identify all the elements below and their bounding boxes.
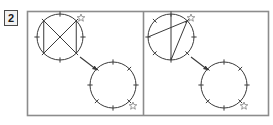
figure-canvas <box>0 0 273 125</box>
figure-root: 2 <box>0 0 273 125</box>
